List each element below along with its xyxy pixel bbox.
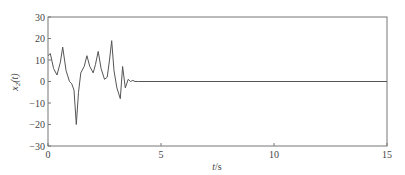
y-tick-label: −30 — [29, 141, 45, 152]
x-tick-label: 15 — [382, 149, 392, 160]
x-axis-label: t/s — [212, 161, 222, 172]
x-tick-label: 0 — [46, 149, 51, 160]
plot-area — [48, 17, 387, 146]
series-line — [48, 41, 387, 125]
y-tick-label: −10 — [29, 98, 45, 109]
x-tick-label: 5 — [159, 149, 164, 160]
x-tick-label: 10 — [269, 149, 279, 160]
y-tick-label: 30 — [35, 12, 45, 23]
y-tick-label: 0 — [40, 76, 45, 87]
y-tick-label: 10 — [35, 55, 45, 66]
line-chart: 3020100−10−20−30 051015 t/s x2(t) — [0, 0, 405, 175]
y-tick-label: 20 — [35, 33, 45, 44]
y-tick-label: −20 — [29, 119, 45, 130]
y-axis-label: x2(t) — [9, 73, 22, 92]
